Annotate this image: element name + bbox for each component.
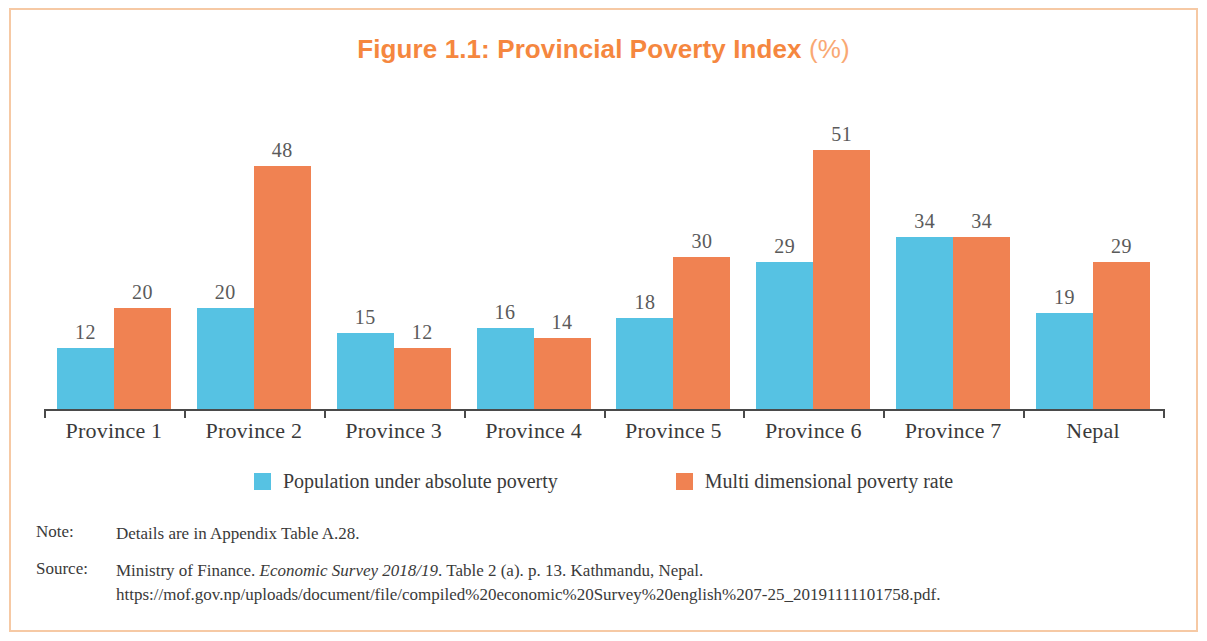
note-text: Details are in Appendix Table A.28. bbox=[116, 522, 360, 547]
figure-page: Figure 1.1: Provincial Poverty Index (%)… bbox=[0, 0, 1207, 641]
bar-orange[interactable] bbox=[254, 166, 311, 409]
bar-group: 1830 bbox=[604, 96, 744, 409]
x-axis-tick bbox=[44, 409, 46, 418]
bar-orange[interactable] bbox=[953, 237, 1010, 409]
source-label: Source: bbox=[36, 559, 116, 579]
bar-value-label: 29 bbox=[1093, 235, 1150, 258]
bar-slot: 20 bbox=[114, 96, 171, 409]
bar-slot: 34 bbox=[896, 96, 953, 409]
x-axis-tick bbox=[1163, 409, 1165, 418]
bar-groups: 12202048151216141830295134341929 bbox=[44, 96, 1163, 409]
x-axis-tick bbox=[464, 409, 466, 418]
source-prefix: Ministry of Finance. bbox=[116, 561, 260, 580]
x-axis-tick bbox=[1023, 409, 1025, 418]
bar-group: 1929 bbox=[1023, 96, 1163, 409]
bar-slot: 29 bbox=[756, 96, 813, 409]
bar-slot: 29 bbox=[1093, 96, 1150, 409]
source-publication-title: Economic Survey 2018/19 bbox=[260, 561, 438, 580]
x-axis-tick bbox=[883, 409, 885, 418]
bar-value-label: 12 bbox=[57, 321, 114, 344]
x-axis-label-3: Province 3 bbox=[324, 418, 464, 444]
bar-value-label: 20 bbox=[197, 281, 254, 304]
bar-value-label: 51 bbox=[813, 123, 870, 146]
bar-slot: 15 bbox=[337, 96, 394, 409]
bar-value-label: 18 bbox=[616, 291, 673, 314]
x-axis-tick bbox=[743, 409, 745, 418]
bar-orange[interactable] bbox=[534, 338, 591, 409]
bar-slot: 16 bbox=[477, 96, 534, 409]
x-axis-tick bbox=[324, 409, 326, 418]
bar-group: 2951 bbox=[743, 96, 883, 409]
bar-value-label: 14 bbox=[534, 311, 591, 334]
chart-plot-area: 12202048151216141830295134341929 bbox=[44, 96, 1163, 411]
bar-value-label: 29 bbox=[756, 235, 813, 258]
legend-label: Population under absolute poverty bbox=[283, 470, 558, 493]
bar-orange[interactable] bbox=[813, 150, 870, 409]
bar-group: 1512 bbox=[324, 96, 464, 409]
bar-group: 1614 bbox=[464, 96, 604, 409]
bar-orange[interactable] bbox=[1093, 262, 1150, 409]
bar-blue[interactable] bbox=[197, 308, 254, 409]
bar-blue[interactable] bbox=[896, 237, 953, 409]
x-axis-label-7: Province 7 bbox=[883, 418, 1023, 444]
chart-legend: Population under absolute povertyMulti d… bbox=[0, 470, 1207, 493]
bar-slot: 51 bbox=[813, 96, 870, 409]
bar-value-label: 12 bbox=[394, 321, 451, 344]
source-text: Ministry of Finance. Economic Survey 201… bbox=[116, 559, 941, 608]
figure-title-text: Figure 1.1: Provincial Poverty Index bbox=[357, 34, 801, 64]
bar-slot: 20 bbox=[197, 96, 254, 409]
bar-value-label: 48 bbox=[254, 139, 311, 162]
bar-value-label: 20 bbox=[114, 281, 171, 304]
x-axis-category-labels: Province 1Province 2Province 3Province 4… bbox=[44, 418, 1163, 444]
legend-label: Multi dimensional poverty rate bbox=[705, 470, 953, 493]
bar-slot: 48 bbox=[254, 96, 311, 409]
source-row: Source: Ministry of Finance. Economic Su… bbox=[36, 559, 1176, 608]
figure-title: Figure 1.1: Provincial Poverty Index (%) bbox=[0, 34, 1207, 65]
figure-title-unit: (%) bbox=[809, 34, 850, 64]
figure-footnotes: Note: Details are in Appendix Table A.28… bbox=[36, 522, 1176, 620]
x-axis-label-4: Province 4 bbox=[464, 418, 604, 444]
source-url[interactable]: https://mof.gov.np/uploads/document/file… bbox=[116, 583, 941, 608]
x-axis-label-5: Province 5 bbox=[604, 418, 744, 444]
bar-slot: 34 bbox=[953, 96, 1010, 409]
bar-blue[interactable] bbox=[337, 333, 394, 409]
bar-slot: 12 bbox=[394, 96, 451, 409]
note-row: Note: Details are in Appendix Table A.28… bbox=[36, 522, 1176, 547]
legend-item[interactable]: Population under absolute poverty bbox=[254, 470, 558, 493]
bar-value-label: 15 bbox=[337, 306, 394, 329]
bar-group: 2048 bbox=[184, 96, 324, 409]
bar-slot: 14 bbox=[534, 96, 591, 409]
x-axis-label-1: Province 1 bbox=[44, 418, 184, 444]
bar-blue[interactable] bbox=[477, 328, 534, 409]
note-label: Note: bbox=[36, 522, 116, 542]
bar-value-label: 34 bbox=[896, 210, 953, 233]
bar-blue[interactable] bbox=[756, 262, 813, 409]
bar-orange[interactable] bbox=[114, 308, 171, 409]
x-axis-label-6: Province 6 bbox=[743, 418, 883, 444]
legend-item[interactable]: Multi dimensional poverty rate bbox=[676, 470, 953, 493]
bar-slot: 18 bbox=[616, 96, 673, 409]
bar-value-label: 16 bbox=[477, 301, 534, 324]
bar-value-label: 30 bbox=[673, 230, 730, 253]
bar-value-label: 19 bbox=[1036, 286, 1093, 309]
bar-orange[interactable] bbox=[673, 257, 730, 409]
x-axis-tick bbox=[184, 409, 186, 418]
bar-value-label: 34 bbox=[953, 210, 1010, 233]
bar-blue[interactable] bbox=[616, 318, 673, 409]
source-suffix: . Table 2 (a). p. 13. Kathmandu, Nepal. bbox=[438, 561, 703, 580]
orange-square-icon bbox=[676, 473, 693, 490]
bar-blue[interactable] bbox=[1036, 313, 1093, 409]
bar-slot: 19 bbox=[1036, 96, 1093, 409]
bar-group: 3434 bbox=[883, 96, 1023, 409]
blue-square-icon bbox=[254, 473, 271, 490]
bar-slot: 12 bbox=[57, 96, 114, 409]
bar-orange[interactable] bbox=[394, 348, 451, 409]
bar-slot: 30 bbox=[673, 96, 730, 409]
bar-group: 1220 bbox=[44, 96, 184, 409]
x-axis-label-8: Nepal bbox=[1023, 418, 1163, 444]
x-axis-tick bbox=[604, 409, 606, 418]
bar-blue[interactable] bbox=[57, 348, 114, 409]
x-axis-label-2: Province 2 bbox=[184, 418, 324, 444]
